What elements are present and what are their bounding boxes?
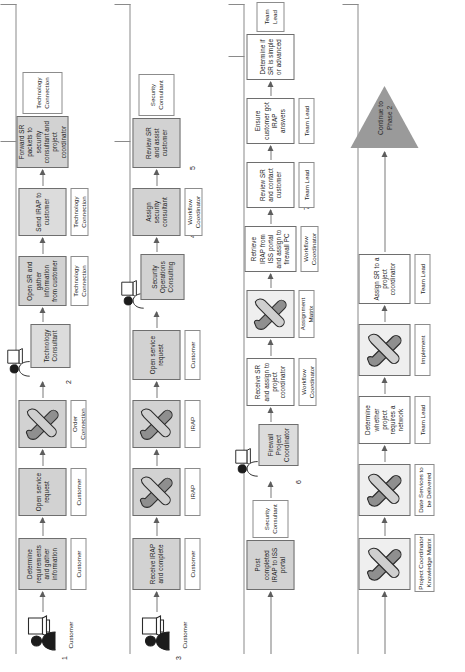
wrench-screwdriver-icon	[252, 295, 288, 333]
node-irap-tool[interactable]	[132, 468, 180, 516]
node-review-sr-contact-customer[interactable]: Review SR and contact customer	[246, 162, 294, 208]
node-receive-sr-assign-pc[interactable]: Receive SR and assign to project coordin…	[246, 358, 294, 406]
lane-4: Project Coordinator Knowledge Matrix Dat…	[344, 0, 456, 672]
flowchart-canvas: 1 Customer Determine requirements and ga…	[0, 0, 465, 672]
lane-3: Post completed IRAP to ISS portal Securi…	[230, 0, 342, 672]
node-project-coordinator-knowledge-matrix-tool[interactable]	[358, 538, 410, 590]
lane-2-return-bracket	[114, 4, 130, 654]
caption-order-connection: Order Connection	[70, 400, 86, 448]
connector-arrow	[270, 210, 271, 224]
caption-technology-connection: Technology Connection	[70, 256, 88, 306]
connector-arrow	[42, 238, 43, 254]
node-order-connection-tool[interactable]	[18, 400, 66, 448]
node-assign-sr-to-project-coordinator[interactable]: Assign SR to a project coordinator	[358, 254, 410, 304]
wrench-screwdriver-icon	[24, 405, 60, 443]
person-at-computer-icon	[138, 614, 170, 656]
person-at-computer-icon	[24, 614, 56, 656]
node-open-sr-gather-info[interactable]: Open SR and gather information from cust…	[18, 256, 66, 306]
node-forward-sr-packets[interactable]: Forward SR packets to security consultan…	[16, 116, 68, 168]
caption-security-consultant: Security Consultant	[138, 74, 174, 116]
node-review-sr-assist-customer[interactable]: Review SR and assist customer	[132, 118, 180, 168]
node-post-completed-irap[interactable]: Post completed IRAP to ISS portal	[246, 540, 294, 590]
caption-technology-connection: Technology Connection	[22, 72, 62, 114]
node-implement-tool[interactable]	[358, 324, 410, 376]
connector-arrow	[156, 238, 157, 252]
caption-team-lead: Team Lead	[298, 162, 314, 208]
node-assign-security-consultant[interactable]: Assign security consultant	[132, 188, 180, 236]
caption-workflow-coordinator: Workflow Coordinator	[184, 188, 202, 236]
node-security-operations-consulting[interactable]: Security Operations Consulting	[140, 254, 184, 300]
node-determine-project-requires-network[interactable]: Determine whether project requires a net…	[358, 396, 410, 444]
lane-2-exit-line	[114, 141, 130, 142]
connector-arrow	[384, 378, 385, 394]
node-firewall-project-coordinator[interactable]: Firewall Project Coordinator	[258, 424, 298, 466]
connector-arrow	[270, 82, 271, 96]
node-retrieve-irap-assign-firewall[interactable]: Retrieve IRAP from ISS portal and assign…	[244, 226, 296, 272]
node-determine-sr-simple-or-advanced[interactable]: Determine if SR is simple or advanced	[246, 34, 294, 80]
caption-team-lead: Team Lead	[256, 2, 284, 32]
connector-arrow	[270, 340, 271, 356]
person-at-computer-icon	[232, 446, 258, 482]
connector-arrow	[270, 408, 271, 422]
wrench-screwdriver-icon	[365, 470, 403, 510]
lane-1-actor-label: Customer	[64, 612, 76, 658]
connector-arrow-to-terminator	[384, 152, 385, 252]
caption-team-lead: Team Lead	[414, 254, 430, 304]
lane-1: 1 Customer Determine requirements and ga…	[2, 0, 114, 672]
node-date-services-to-be-delivered-tool[interactable]	[358, 464, 410, 516]
node-determine-requirements[interactable]: Determine requirements and gather inform…	[18, 538, 66, 590]
connector-arrow	[156, 592, 157, 612]
caption-workflow-coordinator: Workflow Coordinator	[298, 358, 316, 406]
wrench-screwdriver-icon	[138, 405, 174, 443]
connector-arrow	[270, 274, 271, 288]
caption-team-lead: Team Lead	[298, 98, 314, 144]
connector-arrow	[156, 312, 157, 328]
caption-implement: Implement	[414, 324, 430, 376]
caption-technology-connection: Technology Connection	[70, 188, 88, 236]
caption-customer: Customer	[70, 538, 86, 590]
caption-team-lead: Team Lead	[414, 396, 430, 444]
caption-irap: IRAP	[184, 468, 200, 516]
lane-3-return-bracket	[228, 4, 244, 654]
node-open-service-request[interactable]: Open service request	[18, 468, 66, 516]
wrench-screwdriver-icon	[138, 473, 174, 511]
connector-arrow	[270, 146, 271, 160]
connector-arrow	[156, 170, 157, 186]
connector-arrow	[42, 170, 43, 186]
step-number-5: 5	[188, 166, 195, 170]
node-ensure-customer-got-irap-answers[interactable]: Ensure customer got IRAP answers	[246, 98, 294, 144]
node-receive-irap-complete[interactable]: Receive IRAP and complete	[132, 538, 180, 590]
connector-arrow	[384, 306, 385, 322]
lane-1-return-bracket	[0, 4, 16, 654]
node-open-service-request[interactable]: Open service request	[132, 330, 180, 380]
connector-arrow	[270, 592, 271, 654]
connector-arrow	[42, 382, 43, 398]
lane-2-actor-label: Customer	[178, 612, 190, 658]
lane-2: 3 Customer Receive IRAP and complete Cus…	[116, 0, 228, 672]
connector-arrow	[156, 382, 157, 398]
caption-workflow-coordinator: Workflow Coordinator	[300, 226, 318, 272]
terminator-label: Continue to Phase 2	[376, 92, 393, 144]
connector-arrow	[156, 518, 157, 536]
caption-project-coordinator-knowledge-matrix: Project Coordinator Knowledge Matrix	[414, 534, 434, 592]
lane-3-exit-line	[228, 56, 244, 57]
caption-date-services-to-be-delivered: Date Services to be Delivered	[414, 464, 434, 516]
connector-arrow	[384, 518, 385, 536]
flowchart-rotated-layer: 1 Customer Determine requirements and ga…	[0, 0, 465, 672]
step-number-2: 2	[64, 380, 71, 384]
person-at-computer-icon	[4, 346, 30, 382]
node-send-irap-to-customer[interactable]: Send IRAP to customer	[18, 188, 66, 236]
caption-customer: Customer	[70, 468, 86, 516]
lane-1-exit-line	[0, 141, 16, 142]
caption-customer: Customer	[184, 330, 200, 380]
node-assignment-matrix-tool[interactable]	[246, 290, 294, 338]
connector-arrow	[42, 450, 43, 466]
caption-customer: Customer	[184, 538, 200, 590]
node-irap-tool[interactable]	[132, 400, 180, 448]
connector-arrow	[42, 518, 43, 536]
node-technology-consultant[interactable]: Technology Consultant	[30, 324, 70, 368]
connector-arrow	[270, 482, 271, 498]
wrench-screwdriver-icon	[365, 544, 403, 584]
connector-arrow	[156, 450, 157, 466]
connector-arrow	[384, 446, 385, 462]
